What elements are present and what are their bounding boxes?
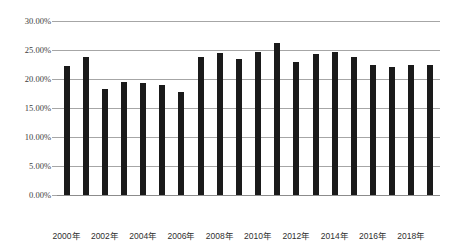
bar xyxy=(178,92,184,195)
bar xyxy=(427,65,433,195)
y-axis-tick-label: 0.00% xyxy=(5,190,51,200)
bar xyxy=(274,43,280,196)
x-axis-tick-label: 2000年 xyxy=(47,229,87,241)
x-axis: 2000年2002年2004年2006年2008年2010年2012年2014年… xyxy=(0,229,452,245)
x-axis-tick-label: 2006年 xyxy=(161,229,201,241)
bar xyxy=(102,89,108,195)
y-axis-tick-label: 10.00% xyxy=(5,132,51,142)
bar xyxy=(332,52,338,195)
bar xyxy=(236,59,242,195)
y-axis-tick-label: 25.00% xyxy=(5,45,51,55)
x-axis-tick-label: 2012年 xyxy=(276,229,316,241)
bar xyxy=(83,57,89,195)
bar xyxy=(351,57,357,195)
bar xyxy=(198,57,204,195)
x-axis-tick-label: 2016年 xyxy=(353,229,393,241)
x-axis-tick-label: 2010年 xyxy=(238,229,278,241)
y-axis-tick-label: 30.00% xyxy=(5,16,51,26)
bar xyxy=(370,65,376,195)
bar xyxy=(140,83,146,195)
bar xyxy=(255,52,261,195)
x-axis-tick-label: 2014年 xyxy=(315,229,355,241)
gridline xyxy=(57,195,440,196)
bar xyxy=(159,85,165,195)
bar xyxy=(313,54,319,195)
bar-chart: 0.00%5.00%10.00%15.00%20.00%25.00%30.00%… xyxy=(0,0,452,252)
x-axis-tick-label: 2004年 xyxy=(123,229,163,241)
bar xyxy=(64,66,70,195)
bar xyxy=(121,82,127,195)
bar-series xyxy=(57,21,440,195)
x-axis-tick-label: 2002年 xyxy=(85,229,125,241)
bar xyxy=(217,53,223,195)
bar xyxy=(389,67,395,195)
x-axis-tick-label: 2008年 xyxy=(200,229,240,241)
y-axis-tick-label: 15.00% xyxy=(5,103,51,113)
bar xyxy=(293,62,299,195)
bar xyxy=(408,65,414,196)
y-axis-tick-label: 5.00% xyxy=(5,161,51,171)
y-axis-tick-label: 20.00% xyxy=(5,74,51,84)
x-axis-tick-label: 2018年 xyxy=(391,229,431,241)
